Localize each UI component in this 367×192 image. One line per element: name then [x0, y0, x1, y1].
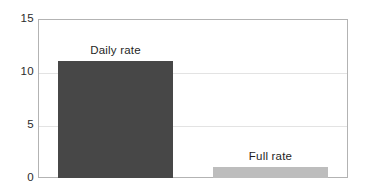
y-axis-tick-10: 10 — [6, 66, 34, 78]
y-axis-tick-15: 15 — [6, 13, 34, 25]
bar-label-daily-rate: Daily rate — [58, 45, 173, 57]
bar-label-full-rate: Full rate — [213, 151, 328, 163]
bar-chart: 15 10 5 0 Daily rate Full rate — [0, 0, 367, 192]
bar-daily-rate — [58, 61, 173, 178]
y-axis-tick-0: 0 — [6, 172, 34, 184]
bar-full-rate — [213, 167, 328, 178]
y-axis-tick-5: 5 — [6, 119, 34, 131]
